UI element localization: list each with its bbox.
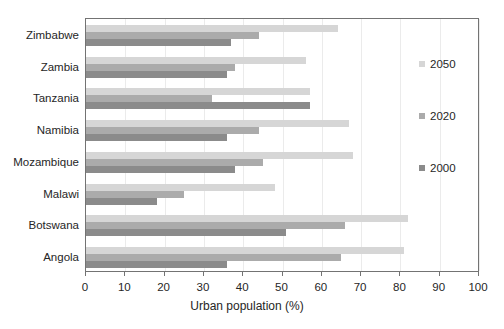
category-label-zimbabwe: Zimbabwe: [0, 28, 79, 42]
bar-malawi-2000: [86, 198, 157, 205]
x-tick-label-30: 30: [186, 281, 220, 293]
bar-namibia-2000: [86, 134, 227, 141]
gridline-60: [322, 19, 323, 271]
bar-tanzania-2020: [86, 95, 212, 102]
x-tick-mark-70: [360, 272, 361, 276]
x-tick-label-20: 20: [147, 281, 181, 293]
x-tick-mark-30: [203, 272, 204, 276]
x-axis-title: Urban population (%): [172, 299, 322, 313]
legend-marker-2050: [419, 61, 425, 67]
bar-mozambique-2000: [86, 166, 235, 173]
category-label-namibia: Namibia: [0, 123, 79, 137]
category-label-mozambique: Mozambique: [0, 155, 79, 169]
gridline-70: [361, 19, 362, 271]
legend-label-2000: 2000: [430, 162, 456, 174]
x-tick-label-90: 90: [422, 281, 456, 293]
bar-botswana-2020: [86, 222, 345, 229]
legend: 205020202000: [419, 57, 456, 174]
x-tick-label-10: 10: [107, 281, 141, 293]
legend-label-2020: 2020: [430, 110, 456, 122]
bar-angola-2050: [86, 247, 404, 254]
bar-namibia-2020: [86, 127, 259, 134]
x-tick-label-40: 40: [225, 281, 259, 293]
category-label-angola: Angola: [0, 250, 79, 264]
bar-malawi-2050: [86, 184, 275, 191]
x-tick-mark-100: [478, 272, 479, 276]
bar-tanzania-2050: [86, 88, 310, 95]
bar-zimbabwe-2000: [86, 39, 231, 46]
category-label-malawi: Malawi: [0, 187, 79, 201]
gridline-100: [479, 19, 480, 271]
category-label-botswana: Botswana: [0, 218, 79, 232]
x-tick-mark-10: [124, 272, 125, 276]
x-tick-mark-20: [164, 272, 165, 276]
bar-zambia-2050: [86, 57, 306, 64]
legend-marker-2000: [419, 165, 425, 171]
x-tick-label-100: 100: [461, 281, 495, 293]
category-label-tanzania: Tanzania: [0, 91, 79, 105]
x-tick-mark-60: [321, 272, 322, 276]
bar-angola-2000: [86, 261, 227, 268]
x-tick-mark-80: [399, 272, 400, 276]
bar-zambia-2000: [86, 71, 227, 78]
bar-angola-2020: [86, 254, 341, 261]
bar-tanzania-2000: [86, 102, 310, 109]
bar-mozambique-2050: [86, 152, 353, 159]
legend-item-2050: 2050: [419, 57, 456, 70]
x-tick-mark-0: [85, 272, 86, 276]
bar-mozambique-2020: [86, 159, 263, 166]
legend-item-2020: 2020: [419, 109, 456, 122]
bar-zimbabwe-2020: [86, 32, 259, 39]
urban-population-bar-chart: ZimbabweZambiaTanzaniaNamibiaMozambiqueM…: [0, 0, 504, 329]
x-tick-label-0: 0: [68, 281, 102, 293]
x-tick-label-70: 70: [343, 281, 377, 293]
x-tick-mark-40: [242, 272, 243, 276]
legend-label-2050: 2050: [430, 58, 456, 70]
category-label-zambia: Zambia: [0, 60, 79, 74]
gridline-80: [400, 19, 401, 271]
legend-item-2000: 2000: [419, 161, 456, 174]
x-tick-mark-50: [282, 272, 283, 276]
bar-zambia-2020: [86, 64, 235, 71]
x-tick-label-50: 50: [265, 281, 299, 293]
bar-zimbabwe-2050: [86, 25, 338, 32]
legend-marker-2020: [419, 113, 425, 119]
bar-malawi-2020: [86, 191, 184, 198]
x-tick-label-80: 80: [382, 281, 416, 293]
x-tick-label-60: 60: [304, 281, 338, 293]
bar-namibia-2050: [86, 120, 349, 127]
x-tick-mark-90: [439, 272, 440, 276]
bar-botswana-2050: [86, 215, 408, 222]
bar-botswana-2000: [86, 229, 286, 236]
